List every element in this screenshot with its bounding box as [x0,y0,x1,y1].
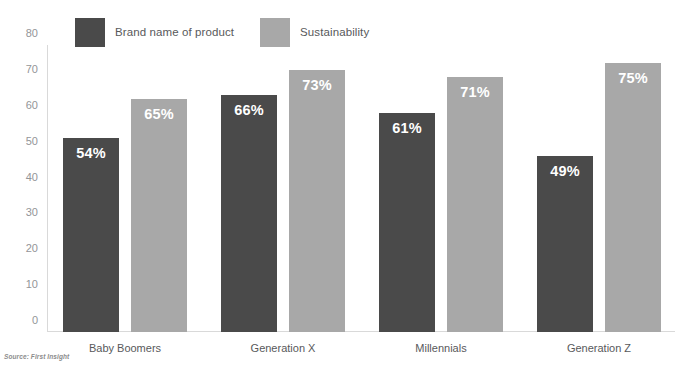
bar[interactable]: 66% [221,95,277,332]
y-axis-tick-label: 80 [26,27,38,39]
legend-item-brand-name-of-product[interactable]: Brand name of product [75,18,234,47]
bar-value-label: 66% [221,102,277,118]
bar-value-label: 71% [447,84,503,100]
source-note: Source: First Insight [4,353,69,360]
bar[interactable]: 65% [131,99,187,332]
bar[interactable]: 75% [605,63,661,332]
x-axis-category-label: Generation Z [537,342,661,354]
y-axis-tick-label: 50 [26,135,38,147]
y-axis-tick-label: 30 [26,206,38,218]
chart-legend: Brand name of product Sustainability [75,17,369,47]
bar[interactable]: 49% [537,156,593,332]
y-axis-tick-label: 40 [26,171,38,183]
bar-value-label: 73% [289,77,345,93]
y-axis-tick-label: 20 [26,242,38,254]
legend-item-label: Sustainability [300,26,369,38]
bar[interactable]: 61% [379,113,435,332]
y-axis-tick-label: 70 [26,63,38,75]
x-axis-category-label: Generation X [221,342,345,354]
bar-group: 66%73% [221,45,345,332]
bar-value-label: 65% [131,106,187,122]
bar-value-label: 75% [605,70,661,86]
legend-swatch-icon [75,18,105,47]
bar-group: 54%65% [63,45,187,332]
legend-swatch-icon [260,18,290,47]
y-axis-tick-label: 10 [26,278,38,290]
bar-group: 61%71% [379,45,503,332]
bar[interactable]: 71% [447,77,503,332]
bar-group: 49%75% [537,45,661,332]
plot-area: 80706050403020100 54%65%66%73%61%71%49%7… [47,45,661,332]
legend-item-label: Brand name of product [115,26,234,38]
y-axis-line [47,45,48,332]
bar-value-label: 61% [379,120,435,136]
bar-value-label: 49% [537,163,593,179]
legend-item-sustainability[interactable]: Sustainability [260,18,369,47]
bar[interactable]: 54% [63,138,119,332]
bar[interactable]: 73% [289,70,345,332]
bar-value-label: 54% [63,145,119,161]
y-axis-tick-label: 60 [26,99,38,111]
x-axis-category-label: Millennials [379,342,503,354]
y-axis-tick-label: 0 [32,314,38,326]
x-axis-category-label: Baby Boomers [63,342,187,354]
